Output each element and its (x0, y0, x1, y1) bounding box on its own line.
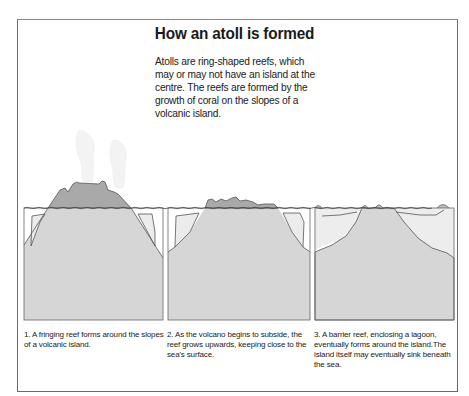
caption-step-3: 3. A barrier reef, enclosing a lagoon, e… (314, 330, 454, 370)
caption-step-2: 2. As the volcano begins to subside, the… (167, 330, 307, 360)
caption-step-1: 1. A fringing reef forms around the slop… (24, 330, 164, 350)
panel-1-fringing-reef (24, 181, 163, 320)
smoke-plumes (76, 130, 126, 188)
volcano-above-sea (205, 197, 278, 208)
panel-2-subsiding-volcano (168, 197, 310, 320)
panel-3-barrier-reef (315, 205, 454, 321)
reef-bump (437, 205, 449, 209)
